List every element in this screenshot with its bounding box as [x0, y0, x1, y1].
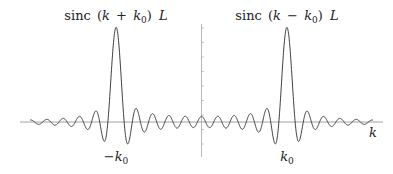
- sinc-plot: sinc (k + k0) L sinc (k − k0) L −k0 k0 k: [0, 0, 393, 174]
- pos-k0-label: k0: [280, 149, 294, 166]
- left-peak-label: sinc (k + k0) L: [64, 8, 167, 25]
- x-axis-label: k: [369, 125, 377, 140]
- right-peak-label: sinc (k − k0) L: [235, 8, 338, 25]
- neg-k0-label: −k0: [104, 149, 129, 166]
- y-axis-ticks: [202, 28, 205, 144]
